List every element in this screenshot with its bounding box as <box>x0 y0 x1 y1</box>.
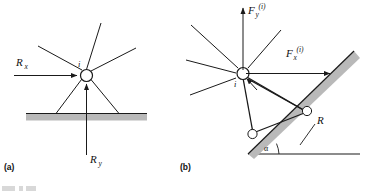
member-b-4 <box>248 30 281 68</box>
cropped-caption-glyph-1 <box>2 186 15 191</box>
reaction-x-label-a: R x <box>15 56 29 71</box>
panel-caption-a: (a) <box>4 162 15 172</box>
node-label-b: i <box>234 79 237 89</box>
member-b-2 <box>186 60 236 73</box>
force-x-sup-b: (i) <box>297 45 305 54</box>
force-x-base-b: F <box>285 47 293 59</box>
roller-lower-b <box>248 129 257 138</box>
roller-strut-left-b <box>243 78 253 133</box>
structural-diagram: R x R y i (a) α <box>0 0 368 191</box>
force-y-base-b: F <box>247 4 255 16</box>
roller-tie-b <box>245 76 307 112</box>
angle-arc-b <box>277 144 280 154</box>
inclined-plane-b <box>248 51 360 159</box>
cropped-caption-strip <box>2 186 36 191</box>
force-x-label-b: F x (i) <box>285 45 304 62</box>
reaction-y-label-a: R y <box>89 153 103 168</box>
cropped-caption-glyph-3 <box>26 186 36 191</box>
panel-a: R x R y i (a) <box>4 23 147 172</box>
figure-container: R x R y i (a) α <box>0 0 368 191</box>
member-b-3 <box>190 78 236 95</box>
member-a-2 <box>38 46 82 70</box>
members-a <box>38 23 136 71</box>
resultant-leader-b <box>300 124 315 145</box>
member-a-1 <box>86 23 101 71</box>
roller-upper-b <box>302 106 311 115</box>
force-y-label-b: F y (i) <box>247 2 266 19</box>
resultant-label-b: R <box>316 114 324 126</box>
reaction-x-base-a: R <box>15 56 23 68</box>
reaction-y-sub-a: y <box>98 159 103 168</box>
node-label-a: i <box>78 59 81 69</box>
force-y-sup-b: (i) <box>259 2 267 11</box>
reaction-x-sub-a: x <box>24 62 29 71</box>
force-y-sub-b: y <box>255 10 260 19</box>
reaction-y-base-a: R <box>89 153 97 165</box>
incline-surface-line-b <box>248 51 354 154</box>
cropped-caption-glyph-2 <box>19 186 23 191</box>
member-b-1 <box>191 25 238 68</box>
node-circle-a <box>81 70 93 82</box>
incline-fill-b <box>248 51 360 159</box>
member-a-3 <box>91 48 136 71</box>
panel-b: α <box>180 2 360 172</box>
panel-caption-b: (b) <box>180 162 191 172</box>
force-x-sub-b: x <box>293 53 298 62</box>
